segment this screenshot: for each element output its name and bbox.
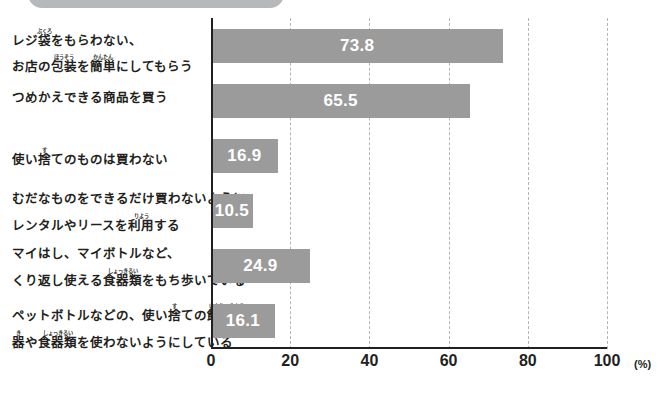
ruby-text: 袋ぶくろ <box>38 34 51 48</box>
bar: 24.9 <box>211 249 310 283</box>
bar-value-label: 16.9 <box>227 146 261 166</box>
ruby-text: 食器類しょっきるい <box>38 336 77 350</box>
category-label-line: レンタルやリースを利用りようする <box>12 213 208 233</box>
category-label-line: 器きや食器類しょっきるいを使わないようにしている <box>12 330 208 350</box>
bar-row: 65.5 <box>211 84 470 118</box>
bar: 10.5 <box>211 194 253 228</box>
bar-row: 16.9 <box>211 139 278 173</box>
category-label-line: くり返し使える食器類しょっきるいをもち歩いている <box>12 268 208 288</box>
bar-row: 16.1 <box>211 304 275 338</box>
x-axis-tick-labels: 020406080100 <box>211 352 631 376</box>
category-label: レジ袋ぶくろをもらわない、お店の包装ほうそうを簡単かんたんにしてもらう <box>12 28 208 74</box>
furigana: しょっきるい <box>103 268 142 274</box>
ruby-text: 食器類しょっきるい <box>103 274 142 288</box>
bar: 16.9 <box>211 139 278 173</box>
ruby-text: 簡単かんたん <box>90 60 116 74</box>
top-banner-decoration <box>28 0 284 8</box>
x-tick-20: 20 <box>281 352 299 370</box>
bar-row: 10.5 <box>211 194 253 228</box>
bar-row: 24.9 <box>211 249 310 283</box>
x-tick-100: 100 <box>594 352 621 370</box>
category-label: むだなものをできるだけ買わないようにレンタルやリースを利用りようする <box>12 193 208 232</box>
bar: 65.5 <box>211 84 470 118</box>
bar-value-label: 24.9 <box>243 256 277 276</box>
furigana: す <box>38 147 51 153</box>
furigana: き <box>12 330 25 336</box>
category-label-line: つめかえできる商品を買う <box>12 92 208 105</box>
category-label-line: レジ袋ぶくろをもらわない、 <box>12 28 208 48</box>
bar-value-label: 16.1 <box>226 311 260 331</box>
category-label: 使い捨すてのものは買わない <box>12 147 208 167</box>
bar-row: 73.8 <box>211 29 503 63</box>
x-tick-0: 0 <box>207 352 216 370</box>
category-label-line: ペットボトルなどの、使い捨すての飲料容いんりょうよう <box>12 303 208 323</box>
plot-area: 73.865.516.910.524.916.1 <box>211 18 607 349</box>
gridline-100 <box>607 18 609 349</box>
chart-page: レジ袋ぶくろをもらわない、お店の包装ほうそうを簡単かんたんにしてもらうつめかえで… <box>0 0 667 399</box>
bar: 73.8 <box>211 29 503 63</box>
bar: 16.1 <box>211 304 275 338</box>
category-label: マイはし、マイボトルなど、くり返し使える食器類しょっきるいをもち歩いている <box>12 248 208 287</box>
ruby-text: 包装ほうそう <box>51 60 77 74</box>
category-label: つめかえできる商品を買う <box>12 92 208 105</box>
bar-value-label: 65.5 <box>324 91 358 111</box>
category-label-line: お店の包装ほうそうを簡単かんたんにしてもらう <box>12 54 208 74</box>
furigana: しょっきるい <box>38 330 77 336</box>
furigana: ぶくろ <box>37 28 52 34</box>
x-axis-line <box>211 347 607 349</box>
category-label-line: 使い捨すてのものは買わない <box>12 147 208 167</box>
ruby-text: 捨す <box>38 153 51 167</box>
furigana: かんたん <box>90 54 116 60</box>
x-tick-40: 40 <box>360 352 378 370</box>
x-tick-80: 80 <box>519 352 537 370</box>
bar-series: 73.865.516.910.524.916.1 <box>211 18 607 349</box>
category-label-line: むだなものをできるだけ買わないように <box>12 193 208 206</box>
x-axis-unit-label: (%) <box>634 358 651 370</box>
furigana: りよう <box>128 213 154 219</box>
bar-value-label: 73.8 <box>340 36 374 56</box>
category-label-column: レジ袋ぶくろをもらわない、お店の包装ほうそうを簡単かんたんにしてもらうつめかえで… <box>0 18 208 349</box>
y-axis-line <box>211 18 213 349</box>
x-tick-60: 60 <box>440 352 458 370</box>
category-label-line: マイはし、マイボトルなど、 <box>12 248 208 261</box>
furigana: す <box>168 303 181 309</box>
furigana: ほうそう <box>51 54 77 60</box>
ruby-text: 利用りよう <box>128 219 154 233</box>
bar-value-label: 10.5 <box>215 201 249 221</box>
category-label: ペットボトルなどの、使い捨すての飲料容いんりょうよう器きや食器類しょっきるいを使… <box>12 303 208 349</box>
ruby-text: 器き <box>12 336 25 350</box>
ruby-text: 捨す <box>168 309 181 323</box>
